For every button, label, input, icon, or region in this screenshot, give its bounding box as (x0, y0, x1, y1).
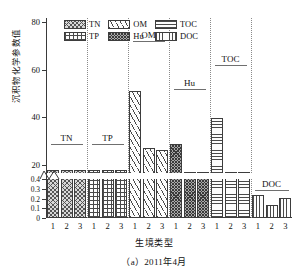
y-tick-label: 40 (32, 113, 41, 121)
bar-om-2-base (143, 179, 155, 218)
bar-slot (60, 18, 74, 173)
bar-tn-1-base (47, 179, 59, 218)
legend-label-toc: TOC (180, 20, 197, 29)
bar-slot (142, 179, 156, 218)
bar-tn-2-stub (61, 170, 73, 173)
bar-slot (101, 179, 115, 218)
figure: 沉积物化学参数值 20406080 TNTPOMHuTOC 00.10.20.3… (0, 0, 308, 278)
x-tick-label: 1 (169, 221, 183, 231)
bar-om-2 (143, 148, 155, 173)
x-tick-label: 2 (101, 221, 115, 231)
group-underline-tn (51, 144, 83, 145)
legend-item-doc: DOC (155, 32, 198, 41)
bar-tn-2-base (61, 179, 73, 218)
group-label-doc: DOC (251, 179, 292, 189)
upper-panel: 20406080 TNTPOMHuTOC (46, 18, 292, 173)
x-tick-label: 3 (73, 221, 87, 231)
group-separator (210, 179, 211, 218)
bar-slot (183, 18, 197, 173)
bar-hu-1 (170, 144, 182, 173)
x-tick-label: 3 (237, 221, 251, 231)
x-tick-label: 3 (155, 221, 169, 231)
group-label-tn: TN (46, 133, 87, 143)
legend-swatch-toc (155, 20, 177, 29)
bar-om-1-base (129, 179, 141, 218)
bar-tn-3-base (74, 179, 86, 218)
bar-slot (101, 18, 115, 173)
legend-item-hu: Hu (108, 32, 147, 41)
bar-slot (60, 179, 74, 218)
group-underline-hu (174, 89, 206, 90)
group-separator (210, 18, 211, 173)
legend-swatch-tn (64, 20, 86, 29)
group-label-toc: TOC (210, 54, 251, 64)
bar-slot (265, 18, 279, 173)
bar-tp-2-base (102, 179, 114, 218)
bar-slot (73, 179, 87, 218)
x-axis-title: 生境类型 (0, 236, 308, 249)
bar-slot (224, 18, 238, 173)
legend-label-om: OM (133, 20, 147, 29)
y-tick-label: 0 (36, 215, 40, 222)
group-underline-tp (92, 144, 124, 145)
x-tick-label: 1 (87, 221, 101, 231)
legend-label-doc: DOC (180, 32, 198, 41)
y-tick-label: 0.3 (31, 185, 40, 192)
bar-doc-3-base (279, 198, 291, 218)
legend-item-om: OM (108, 20, 147, 29)
bar-tp-3-stub (115, 170, 127, 173)
group-separator (169, 179, 170, 218)
group-underline-toc (215, 65, 247, 66)
x-tick-label: 2 (224, 221, 238, 231)
bar-slot (224, 179, 238, 218)
x-axis-tick-labels: 123123123123123123 (46, 221, 292, 231)
y-tick-label: 80 (32, 18, 41, 26)
group-separator (251, 18, 252, 173)
bar-slot (169, 179, 183, 218)
legend-label-tn: TN (89, 20, 100, 29)
bar-hu-3-base (197, 179, 209, 218)
bar-toc-3-base (238, 179, 250, 218)
bar-slot (196, 179, 210, 218)
bar-om-3-base (156, 179, 168, 218)
group-separator (87, 18, 88, 173)
bar-hu-2-base (184, 179, 196, 218)
y-axis-title: 沉积物化学参数值 (9, 14, 21, 119)
legend-swatch-hu (108, 32, 130, 41)
x-tick-label: 1 (46, 221, 60, 231)
x-tick-label: 2 (265, 221, 279, 231)
bar-slot (87, 18, 101, 173)
bar-toc-1-base (211, 179, 223, 218)
bar-slot (169, 18, 183, 173)
bar-tp-1-stub (88, 170, 100, 173)
y-tick-label: 0.1 (31, 205, 40, 212)
bar-doc-1-base (252, 195, 264, 218)
legend-item-tp: TP (64, 32, 100, 41)
bar-slot (46, 18, 60, 173)
y-tick-label: 60 (32, 66, 41, 74)
bar-om-1 (129, 91, 141, 173)
figure-caption: （a）2011年4月 (0, 255, 308, 268)
bar-toc-3 (238, 172, 250, 173)
bar-hu-1-base (170, 179, 182, 218)
bar-doc-2-base (266, 205, 278, 218)
group-label-hu: Hu (169, 78, 210, 88)
y-tick-label: 20 (32, 161, 41, 169)
bar-tp-3-base (115, 179, 127, 218)
y-tick-label: 0.4 (31, 176, 40, 183)
bar-slot (114, 18, 128, 173)
legend-label-hu: Hu (133, 32, 143, 41)
legend-swatch-om (108, 20, 130, 29)
group-separator (128, 179, 129, 218)
bar-tn-3-stub (74, 170, 86, 173)
legend-swatch-doc (155, 32, 177, 41)
x-tick-label: 2 (60, 221, 74, 231)
y-tick-mark (42, 218, 46, 219)
lower-panel: 00.10.20.30.4 DOC (46, 179, 292, 218)
x-tick-label: 1 (251, 221, 265, 231)
legend: TNOMTOCTPHuDOC (64, 20, 198, 41)
x-tick-label: 2 (142, 221, 156, 231)
group-separator (87, 179, 88, 218)
bar-tp-2-stub (102, 170, 114, 173)
legend-item-toc: TOC (155, 20, 198, 29)
